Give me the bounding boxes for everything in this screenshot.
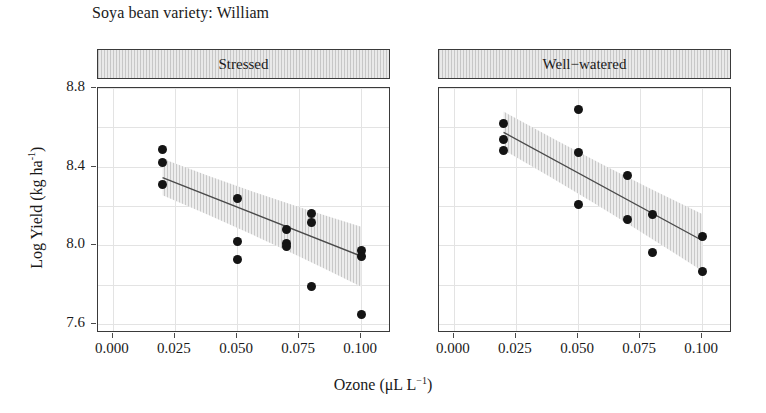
y-tick-mark — [91, 87, 96, 88]
x-axis-title: Ozone (μL L−1) — [0, 375, 766, 394]
x-tick-mark — [298, 333, 299, 338]
x-tick-label: 0.025 — [480, 340, 550, 357]
data-point — [574, 200, 583, 209]
data-point — [648, 248, 657, 257]
data-point — [158, 180, 167, 189]
data-point — [499, 119, 508, 128]
data-point — [233, 194, 242, 203]
y-axis-title: Log Yield (kg ha-1) — [26, 88, 45, 328]
x-tick-label: 0.050 — [542, 340, 612, 357]
x-tick-label: 0.100 — [325, 340, 395, 357]
y-tick-mark — [91, 323, 96, 324]
x-tick-mark — [639, 333, 640, 338]
data-point — [233, 237, 242, 246]
x-tick-label: 0.000 — [418, 340, 488, 357]
confidence-band — [163, 159, 362, 287]
panel-strip-label: Well−watered — [543, 56, 627, 73]
regression-line — [163, 178, 362, 257]
x-tick-label: 0.075 — [263, 340, 333, 357]
x-axis-title-tail: ) — [427, 376, 432, 393]
data-point — [233, 255, 242, 264]
chart-title: Soya bean variety: William — [92, 4, 269, 22]
x-axis-title-exponent: −1 — [416, 375, 427, 386]
y-axis-title-tail: ) — [28, 147, 45, 152]
y-tick-label: 8.4 — [33, 157, 85, 174]
x-tick-label: 0.100 — [666, 340, 736, 357]
data-point — [574, 148, 583, 157]
data-point — [574, 105, 583, 114]
x-tick-label: 0.050 — [201, 340, 271, 357]
regression-overlay — [98, 88, 389, 331]
regression-line — [504, 132, 703, 240]
panel-strip-label: Stressed — [219, 56, 269, 73]
x-tick-mark — [360, 333, 361, 338]
x-tick-mark — [453, 333, 454, 338]
x-tick-label: 0.075 — [604, 340, 674, 357]
x-tick-mark — [236, 333, 237, 338]
confidence-band — [504, 112, 703, 271]
panel-strip-2: Well−watered — [438, 49, 731, 79]
data-point — [698, 232, 707, 241]
y-tick-mark — [91, 244, 96, 245]
regression-overlay — [439, 88, 730, 331]
x-tick-mark — [577, 333, 578, 338]
y-tick-mark — [91, 166, 96, 167]
y-tick-label: 8.8 — [33, 78, 85, 95]
y-tick-label: 8.0 — [33, 235, 85, 252]
data-point — [357, 310, 366, 319]
x-tick-mark — [174, 333, 175, 338]
x-tick-mark — [515, 333, 516, 338]
data-point — [158, 145, 167, 154]
x-axis-title-text: Ozone (μL L — [334, 376, 417, 393]
x-tick-mark — [112, 333, 113, 338]
data-point — [357, 252, 366, 261]
plot-area-1 — [97, 87, 390, 332]
y-tick-label: 7.6 — [33, 314, 85, 331]
x-tick-label: 0.025 — [139, 340, 209, 357]
figure-root: Soya bean variety: William Log Yield (kg… — [0, 0, 766, 413]
x-tick-mark — [701, 333, 702, 338]
panel-strip-1: Stressed — [97, 49, 390, 79]
data-point — [499, 135, 508, 144]
plot-area-2 — [438, 87, 731, 332]
x-tick-label: 0.000 — [77, 340, 147, 357]
